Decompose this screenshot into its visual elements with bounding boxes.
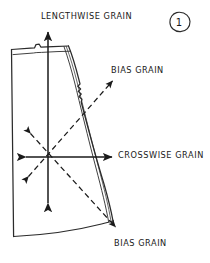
bias-grain-upper-axis	[29, 81, 113, 177]
pattern-bottom-edge	[14, 221, 113, 237]
grain-direction-diagram: LENGTHWISE GRAIN BIAS GRAIN CROSSWISE GR…	[0, 0, 210, 263]
pattern-top-seam-line	[13, 51, 70, 54]
diagram-canvas	[0, 0, 210, 263]
lengthwise-grain-label: LENGTHWISE GRAIN	[41, 12, 132, 20]
pattern-top-edge	[12, 44, 69, 49]
figure-number-badge: 1	[168, 11, 190, 33]
pattern-right-edge-outer	[69, 46, 114, 221]
bias-grain-lower-label: BIAS GRAIN	[114, 239, 167, 247]
crosswise-grain-label: CROSSWISE GRAIN	[118, 151, 204, 159]
pattern-right-seam-allowance	[66, 46, 111, 221]
figure-number-text: 1	[168, 11, 190, 33]
bias-grain-upper-line	[29, 81, 113, 177]
bias-grain-upper-label: BIAS GRAIN	[111, 66, 164, 74]
pattern-left-edge	[12, 50, 14, 237]
